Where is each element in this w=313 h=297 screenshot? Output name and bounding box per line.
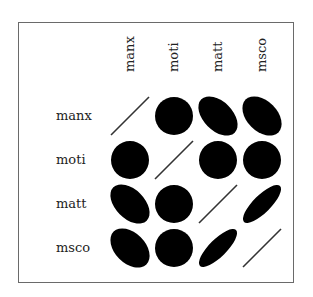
row-label: matt xyxy=(56,196,87,211)
correlation-plot: manxmotimattmscomanxmotimattmsco xyxy=(0,0,313,297)
correlation-ellipse xyxy=(194,224,242,272)
column-label: msco xyxy=(254,38,269,72)
correlation-ellipse xyxy=(147,89,201,143)
row-label: manx xyxy=(56,108,92,123)
correlation-ellipse xyxy=(103,177,157,231)
correlation-ellipse xyxy=(191,133,245,187)
correlation-ellipse xyxy=(147,177,201,231)
correlation-ellipse xyxy=(238,180,286,228)
row-label: msco xyxy=(56,240,90,255)
row-label: moti xyxy=(56,152,86,167)
diagonal-line xyxy=(111,97,149,135)
column-label: manx xyxy=(122,36,137,72)
correlation-ellipse xyxy=(103,221,157,275)
diagonal-line xyxy=(243,229,281,267)
correlation-ellipse xyxy=(103,133,157,187)
correlation-ellipse xyxy=(191,89,245,143)
correlation-ellipse xyxy=(235,89,289,143)
column-label: moti xyxy=(166,42,181,72)
correlation-ellipse xyxy=(147,221,201,275)
column-label: matt xyxy=(210,41,225,72)
diagonal-line xyxy=(199,185,237,223)
correlation-ellipse xyxy=(235,133,289,187)
diagonal-line xyxy=(155,141,193,179)
